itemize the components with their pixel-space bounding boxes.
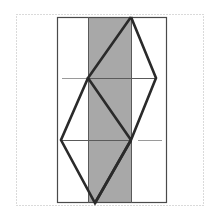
figure-canvas [0, 0, 217, 216]
figure-svg [0, 0, 217, 216]
